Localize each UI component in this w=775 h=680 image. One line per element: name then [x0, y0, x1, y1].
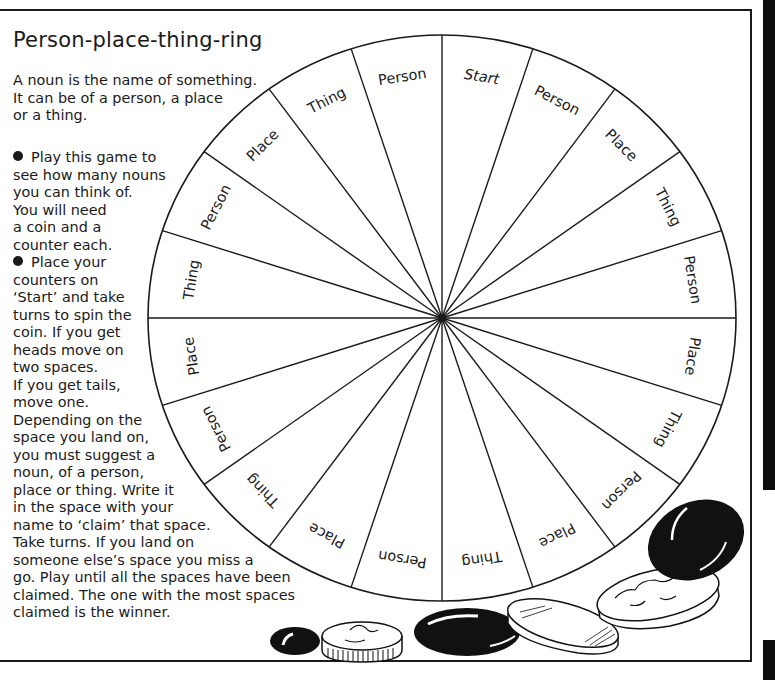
game-wheel: StartPersonPlaceThingPersonPlaceThingPer…: [0, 0, 775, 680]
coins-illustration: [270, 484, 757, 662]
wheel-center: [438, 314, 446, 322]
wheel-spoke: [351, 49, 442, 318]
wheel-segment-label[interactable]: Place: [180, 336, 202, 377]
wheel-spoke: [442, 89, 615, 318]
wheel-segment-label[interactable]: Thing: [651, 184, 684, 228]
wheel-spoke: [442, 318, 615, 547]
wheel-segment-label[interactable]: Place: [536, 520, 578, 552]
wheel-segment-label[interactable]: Place: [243, 126, 282, 165]
wheel-spoke: [442, 318, 533, 587]
silver-coin-small: [322, 622, 402, 662]
wheel-segment-label[interactable]: Person: [377, 65, 428, 88]
wheel-spoke: [204, 318, 442, 484]
wheel-spoke: [269, 89, 442, 318]
wheel-segment-label[interactable]: Place: [682, 336, 704, 377]
wheel-segment-label[interactable]: Thing: [652, 406, 685, 450]
black-counter-large: [414, 608, 520, 656]
wheel-spoke: [162, 231, 442, 318]
wheel-spoke: [442, 152, 680, 318]
wheel-spoke: [442, 318, 680, 484]
wheel-segment-label[interactable]: Thing: [460, 548, 503, 570]
wheel-segment-label[interactable]: Person: [377, 548, 428, 571]
wheel-segment-label[interactable]: Thing: [243, 471, 284, 512]
wheel-segment-label[interactable]: Thing: [180, 259, 202, 302]
wheel-segment-label[interactable]: Person: [532, 82, 583, 118]
wheel-spoke: [442, 231, 722, 318]
wheel-spoke: [442, 318, 722, 405]
wheel-segment-label[interactable]: Place: [602, 126, 641, 165]
black-counter-small: [270, 627, 320, 655]
wheel-segment-label[interactable]: Start: [463, 66, 502, 88]
wheel-spoke: [351, 318, 442, 587]
wheel-spoke: [204, 152, 442, 318]
wheel-spoke: [442, 49, 533, 318]
wheel-segment-label[interactable]: Person: [198, 182, 234, 233]
wheel-segment-label[interactable]: Place: [306, 520, 348, 552]
wheel-segment-label[interactable]: Person: [681, 254, 704, 305]
wheel-spoke: [162, 318, 442, 405]
wheel-spoke: [269, 318, 442, 547]
wheel-segment-label[interactable]: Person: [198, 404, 234, 455]
wheel-segment-label[interactable]: Person: [599, 468, 645, 514]
wheel-segment-label[interactable]: Thing: [304, 84, 348, 117]
